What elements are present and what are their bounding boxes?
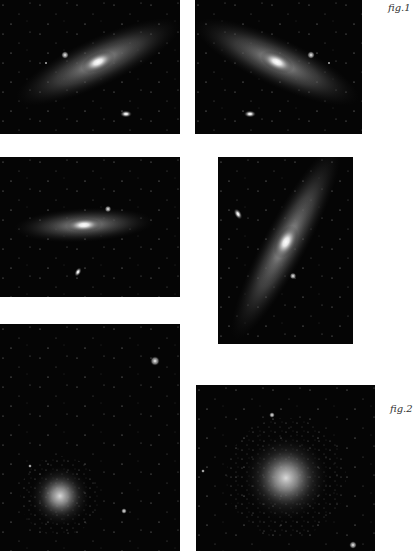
galaxy-panel-tilted-left [195,0,362,134]
cluster-panel-lower-left [0,324,180,551]
galaxy-panel-vertical [218,157,353,344]
figure-label-fig1: fig.1 [388,2,411,13]
galaxy-panel-horizontal [0,157,180,297]
figure-label-fig2: fig.2 [390,403,413,414]
galaxy-panel-tilted-right [0,0,180,134]
cluster-panel-centered [196,385,375,551]
